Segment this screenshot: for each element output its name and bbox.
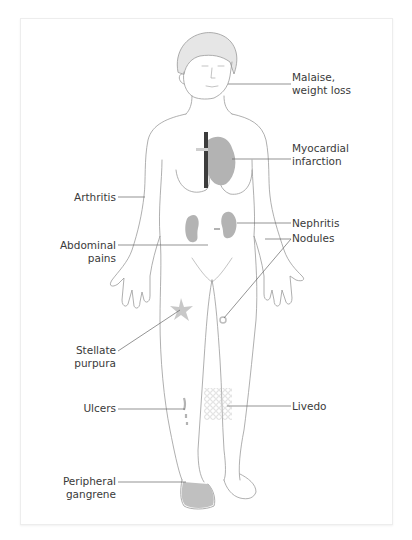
label-nephritis: Nephritis	[292, 217, 339, 230]
aorta	[204, 132, 208, 188]
hair	[177, 33, 237, 74]
label-ulcers: Ulcers	[83, 402, 116, 415]
label-livedo: Livedo	[292, 400, 327, 413]
label-arthritis: Arthritis	[74, 191, 116, 204]
gangrene-foot	[182, 482, 214, 508]
ulcer-marks	[184, 398, 187, 425]
label-peripheral-gangrene: Peripheral gangrene	[63, 475, 116, 500]
heart	[208, 137, 235, 186]
kidney-right	[221, 212, 236, 238]
head	[183, 62, 232, 99]
label-nodules: Nodules	[292, 232, 334, 245]
kidney-left	[185, 215, 198, 242]
label-myocardial-infarction: Myocardial infarction	[292, 142, 349, 167]
label-malaise: Malaise, weight loss	[292, 71, 351, 96]
stellate-purpura	[170, 298, 193, 321]
label-abdominal-pains: Abdominal pains	[60, 239, 116, 264]
nodule	[220, 317, 226, 323]
torso	[110, 114, 186, 480]
livedo-patch	[204, 388, 232, 420]
label-stellate-purpura: Stellate purpura	[74, 344, 116, 369]
